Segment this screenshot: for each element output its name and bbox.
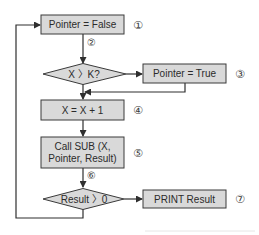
node-pointer-false: Pointer = False <box>41 15 124 34</box>
node-6-label: Result 〉0 <box>61 194 108 205</box>
node-4-label: X = X + 1 <box>62 105 104 116</box>
step-number-2: ② <box>87 37 96 48</box>
connector-3-merge <box>85 83 185 92</box>
node-2-label: X 〉K? <box>68 69 100 80</box>
decision-x-greater-k: X 〉K? <box>43 64 126 85</box>
step-number-1: ① <box>133 19 143 32</box>
step-number-5: ⑤ <box>133 147 143 160</box>
step-number-4: ④ <box>133 104 143 117</box>
step-number-6: ⑥ <box>87 170 96 181</box>
flowchart-diagram: Pointer = False ① ② X 〉K? Pointer = True… <box>0 0 259 235</box>
node-increment-x: X = X + 1 <box>41 100 124 120</box>
node-5-label-line2: Pointer, Result) <box>48 153 116 164</box>
node-print-result: PRINT Result <box>143 190 226 208</box>
step-number-3: ③ <box>235 68 245 81</box>
node-call-sub: Call SUB (X, Pointer, Result) <box>41 137 124 168</box>
decision-result-greater-zero: Result 〉0 <box>43 189 124 210</box>
loop-back-connector <box>16 25 83 218</box>
node-3-label: Pointer = True <box>153 68 217 79</box>
node-pointer-true: Pointer = True <box>143 64 226 83</box>
node-7-label: PRINT Result <box>154 194 215 205</box>
step-number-7: ⑦ <box>235 193 245 206</box>
node-1-label: Pointer = False <box>49 19 117 30</box>
node-5-label-line1: Call SUB (X, <box>54 141 110 152</box>
